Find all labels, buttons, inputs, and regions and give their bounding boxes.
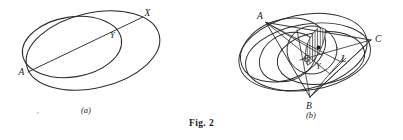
panel-a: X Y A (a) — [18, 0, 168, 115]
panel-a-label-A: A — [18, 67, 25, 77]
figure-container: X Y A (a) — [0, 0, 403, 140]
scan-speck — [37, 112, 39, 114]
panel-a-chord-AX — [28, 17, 143, 72]
panel-b-label-Y: Y — [316, 61, 322, 71]
panel-b-label-L: L — [340, 54, 346, 64]
panel-a-sub-caption: (a) — [81, 105, 91, 115]
panel-b: A C B G Y L (b) — [231, 2, 382, 120]
panel-a-label-Y: Y — [110, 30, 116, 40]
panel-b-label-C: C — [375, 34, 382, 44]
panel-b-label-A: A — [256, 11, 263, 21]
panel-b-point-marker — [317, 46, 321, 50]
panel-b-label-G: G — [303, 54, 310, 64]
panel-a-label-X: X — [144, 8, 152, 18]
panel-a-inner-ellipse — [18, 10, 126, 85]
figure-caption: Fig. 2 — [0, 118, 403, 128]
